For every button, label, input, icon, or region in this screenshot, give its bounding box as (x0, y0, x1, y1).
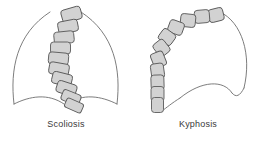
scoliosis-outline-segment (14, 97, 64, 104)
scoliosis-vertebrae-column (48, 5, 84, 113)
kyphosis-outline-segment (180, 84, 232, 98)
scoliosis-outline-segment (81, 12, 118, 104)
kyphosis-outline-segment (220, 12, 247, 88)
panel-kyphosis: Kyphosis (132, 0, 264, 145)
kyphosis-illustration (132, 0, 264, 122)
vertebra (64, 97, 85, 113)
spinal-deformities-figure: Scoliosis Kyphosis (0, 0, 264, 145)
kyphosis-outline-segment (162, 98, 180, 111)
vertebra (194, 9, 210, 23)
label-scoliosis: Scoliosis (0, 119, 132, 130)
scoliosis-outline-segment (13, 12, 50, 104)
scoliosis-illustration (0, 0, 132, 122)
kyphosis-vertebrae-column (150, 7, 225, 113)
panel-scoliosis: Scoliosis (0, 0, 132, 145)
kyphosis-outline-segment (232, 88, 244, 96)
vertebra (152, 98, 164, 113)
label-kyphosis: Kyphosis (132, 119, 264, 130)
